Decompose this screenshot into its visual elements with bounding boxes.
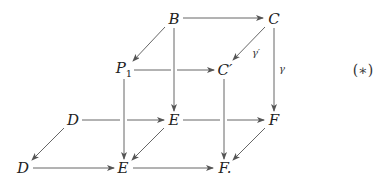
node-B: B — [168, 12, 179, 27]
edge-label-gamma: γ — [279, 64, 285, 74]
node-P1: P1 — [116, 61, 132, 79]
node-C: C — [268, 12, 279, 27]
arrow-B-P1 — [133, 27, 165, 61]
node-D-back: D — [67, 113, 79, 128]
node-C-prime: C′ — [218, 63, 233, 78]
node-D-front: D — [17, 161, 29, 176]
node-P1-main: P — [116, 59, 126, 77]
edge-label-gamma-prime: γ′ — [252, 48, 260, 58]
equation-tag: (∗) — [353, 63, 373, 77]
node-E-back: E — [169, 113, 180, 128]
arrow-E-E — [132, 128, 164, 160]
node-E-front: E — [118, 161, 129, 176]
node-F-back: F — [269, 113, 279, 128]
node-F-front: F. — [219, 161, 232, 176]
node-P1-subscript: 1 — [126, 68, 132, 79]
arrow-F-F — [233, 128, 265, 160]
cube-diagram-edges — [0, 0, 386, 185]
arrow-C-Cprime — [233, 27, 265, 60]
arrow-D-D — [32, 128, 64, 160]
